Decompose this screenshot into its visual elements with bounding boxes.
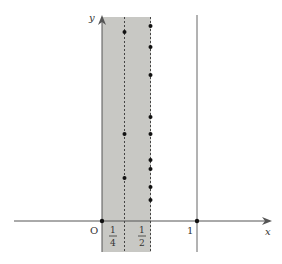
one-point [195, 219, 199, 223]
shaded-region [102, 17, 151, 252]
origin-point [100, 219, 104, 223]
tick-half-denominator: 2 [139, 238, 145, 248]
y-axis-label: y [88, 12, 95, 23]
tick-quarter-numerator: 1 [110, 225, 116, 235]
tick-quarter-denominator: 4 [110, 238, 116, 248]
diagram-canvas: y x O 1 4 1 2 1 [0, 0, 282, 264]
x-axis-label: x [265, 226, 271, 237]
tick-one-label: 1 [187, 225, 193, 236]
tick-half-numerator: 1 [139, 225, 145, 235]
origin-label: O [90, 225, 98, 236]
